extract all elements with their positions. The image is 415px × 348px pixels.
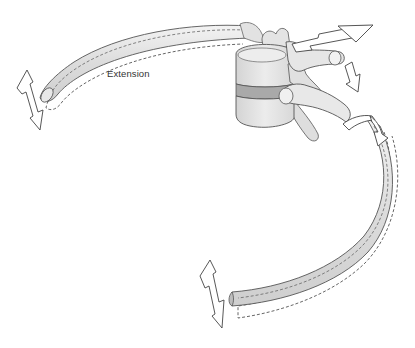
- extension-label: Extension: [107, 68, 150, 79]
- upper-rib-body: [40, 25, 250, 101]
- lower-rib-end: [229, 292, 234, 306]
- vertebral-body-top: [238, 48, 286, 62]
- transverse-process-tip: [329, 51, 341, 65]
- small-down-arrow-icon: [345, 62, 360, 92]
- upper-left-vertical-arrow-icon: [17, 70, 43, 130]
- anatomical-diagram: [0, 0, 415, 348]
- rotation-band-arrow-icon: [343, 115, 388, 146]
- lower-left-vertical-arrow-icon: [200, 260, 224, 328]
- rib-head-end: [279, 88, 293, 104]
- lower-rib: [229, 118, 398, 318]
- upper-rib: [38, 22, 266, 109]
- lower-rib-body: [232, 118, 393, 306]
